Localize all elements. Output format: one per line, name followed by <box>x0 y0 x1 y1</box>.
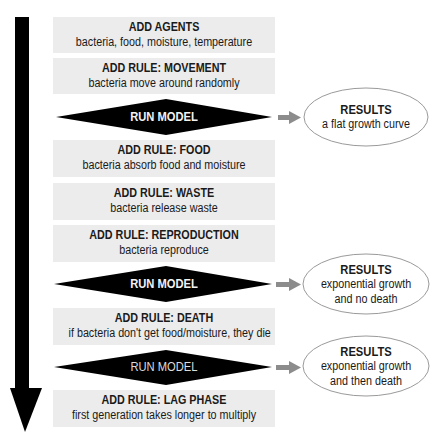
results-title: RESULTS <box>313 102 420 117</box>
results-3: RESULTS exponential growth and then deat… <box>303 344 429 389</box>
flowchart: ADD AGENTS bacteria, food, moisture, tem… <box>0 0 441 440</box>
step-title: ADD RULE: REPRODUCTION <box>69 225 260 243</box>
step-add-rule-lag-phase: ADD RULE: LAG PHASE first generation tak… <box>53 390 275 427</box>
step-subtitle: first generation takes longer to multipl… <box>69 408 260 423</box>
step-add-rule-reproduction: ADD RULE: REPRODUCTION bacteria reproduc… <box>53 225 275 262</box>
step-add-rule-movement: ADD RULE: MOVEMENT bacteria move around … <box>53 58 275 94</box>
connector-arrow-1 <box>278 111 301 124</box>
connector-arrow-3 <box>276 361 301 374</box>
main-down-arrow <box>10 17 42 432</box>
step-title: ADD RULE: LAG PHASE <box>69 390 260 408</box>
step-subtitle: if bacteria don't get food/moisture, the… <box>69 326 260 341</box>
step-title: ADD RULE: WASTE <box>69 183 260 201</box>
step-subtitle: bacteria move around randomly <box>69 76 260 91</box>
step-title: ADD RULE: FOOD <box>69 140 260 158</box>
results-line-1: exponential growth <box>312 359 420 374</box>
connector-arrow-2 <box>276 278 301 291</box>
step-add-agents: ADD AGENTS bacteria, food, moisture, tem… <box>53 17 275 53</box>
step-add-rule-waste: ADD RULE: WASTE bacteria release waste <box>53 183 275 220</box>
results-line-2: and then death <box>312 374 420 389</box>
run-model-label-2: RUN MODEL <box>69 276 260 291</box>
step-subtitle: bacteria, food, moisture, temperature <box>69 35 260 50</box>
run-model-label-3: RUN MODEL <box>69 359 260 374</box>
results-title: RESULTS <box>312 344 420 359</box>
results-line-2: and no death <box>312 292 420 307</box>
results-line-1: exponential growth <box>312 277 420 292</box>
results-line-1: a flat growth curve <box>313 117 420 132</box>
results-title: RESULTS <box>312 262 420 277</box>
step-subtitle: bacteria reproduce <box>69 243 260 258</box>
run-model-label-1: RUN MODEL <box>69 109 260 124</box>
results-1: RESULTS a flat growth curve <box>304 102 428 132</box>
step-add-rule-food: ADD RULE: FOOD bacteria absorb food and … <box>53 140 275 177</box>
step-add-rule-death: ADD RULE: DEATH if bacteria don't get fo… <box>53 308 275 345</box>
results-2: RESULTS exponential growth and no death <box>303 262 429 307</box>
step-subtitle: bacteria release waste <box>69 201 260 216</box>
step-title: ADD AGENTS <box>69 17 260 35</box>
step-title: ADD RULE: DEATH <box>69 308 260 326</box>
step-subtitle: bacteria absorb food and moisture <box>69 158 260 173</box>
step-title: ADD RULE: MOVEMENT <box>69 58 260 76</box>
